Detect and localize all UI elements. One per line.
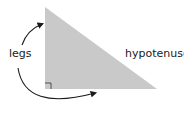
right-triangle-diagram: legs hypotenuse (0, 0, 184, 114)
legs-label: legs (9, 47, 32, 60)
hypotenuse-label: hypotenuse (125, 47, 184, 60)
arrow-to-vertical-leg (22, 24, 42, 45)
